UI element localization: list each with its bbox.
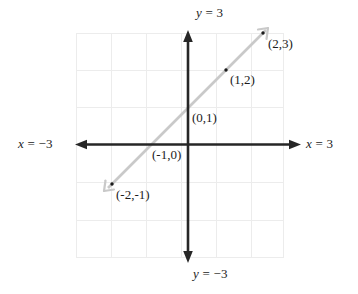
axis-label-y-bottom-var: y bbox=[193, 266, 199, 281]
point-label-n1-0: (-1,0) bbox=[152, 147, 181, 163]
axis-label-x-left-value: −3 bbox=[38, 136, 52, 151]
point-dot-n2-n1 bbox=[110, 182, 113, 185]
point-label-0-1: (0,1) bbox=[192, 110, 217, 126]
axis-label-x-right: x = 3 bbox=[306, 136, 333, 152]
point-label-2-3: (2,3) bbox=[268, 36, 293, 52]
coordinate-plane-figure: y = 3 y = −3 x = −3 x = 3 (2,3) (1,2) (0… bbox=[0, 0, 358, 294]
axis-label-x-left-var: x bbox=[18, 136, 24, 151]
axis-label-x-right-var: x bbox=[306, 136, 312, 151]
axis-label-x-left-rel: = bbox=[27, 136, 35, 151]
axis-label-y-top-var: y bbox=[196, 5, 202, 20]
axis-label-y-bottom: y = −3 bbox=[193, 266, 228, 282]
axis-label-x-right-value: 3 bbox=[326, 136, 333, 151]
axis-label-y-top-rel: = bbox=[205, 5, 213, 20]
axes bbox=[75, 30, 301, 263]
axis-label-y-top: y = 3 bbox=[196, 5, 223, 21]
axis-label-y-top-value: 3 bbox=[216, 5, 223, 20]
axis-label-x-right-rel: = bbox=[315, 136, 323, 151]
point-label-1-2: (1,2) bbox=[230, 72, 255, 88]
axis-label-y-bottom-value: −3 bbox=[213, 266, 227, 281]
point-dot-2-3 bbox=[261, 31, 264, 34]
axis-label-y-bottom-rel: = bbox=[202, 266, 210, 281]
y-axis-arrow-up bbox=[183, 30, 193, 42]
axis-label-x-left: x = −3 bbox=[18, 136, 53, 152]
point-dot-1-2 bbox=[224, 68, 227, 71]
x-axis-arrow-right bbox=[289, 140, 301, 150]
point-label-n2-n1: (-2,-1) bbox=[116, 187, 150, 203]
line-series-y-equals-x-plus-1 bbox=[104, 28, 268, 191]
